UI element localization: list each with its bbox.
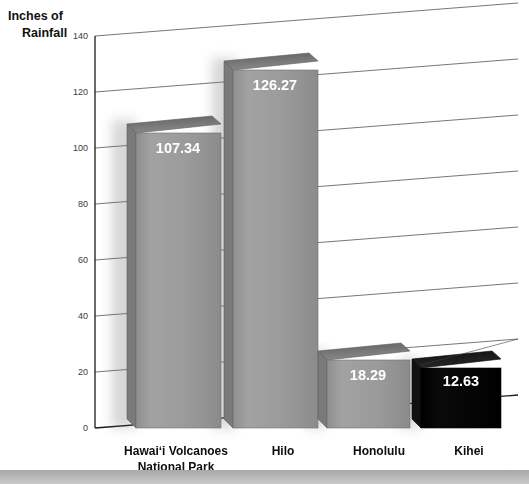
cat-label-4: Kihei: [454, 444, 483, 458]
bar-2-front-face: [233, 70, 318, 428]
bar-4-side-face: [412, 359, 421, 428]
y-tick-120: 120: [73, 87, 88, 97]
bar-3-side-face: [318, 351, 327, 428]
y-tick-140: 140: [73, 31, 88, 41]
bar-hawaii-volcanoes-national-park[interactable]: 107.34: [127, 116, 221, 428]
cat-label-2: Hilo: [272, 444, 295, 458]
y-tick-20: 20: [78, 367, 88, 377]
rainfall-bar-chart: 140 120 100 80 60 40 20 0 Inches of Rain…: [0, 0, 529, 484]
y-tick-100: 100: [73, 143, 88, 153]
y-axis-title-line-1: Inches of: [8, 9, 64, 23]
y-tick-60: 60: [78, 255, 88, 265]
cat-label-3: Honolulu: [353, 444, 405, 458]
bar-3-value-label: 18.29: [350, 367, 386, 383]
bar-4-value-label: 12.63: [443, 373, 479, 389]
bar-1-side-face: [127, 124, 136, 428]
bar-2-value-label: 126.27: [253, 77, 297, 93]
bar-2-top-face: [224, 53, 318, 70]
y-axis-ticks: 140 120 100 80 60 40 20 0: [73, 31, 88, 433]
y-axis-title: Inches of Rainfall: [8, 9, 67, 40]
chart-figure: 140 120 100 80 60 40 20 0 Inches of Rain…: [0, 0, 529, 484]
bar-honolulu[interactable]: 18.29: [318, 343, 410, 428]
y-tick-80: 80: [78, 199, 88, 209]
y-tick-40: 40: [78, 311, 88, 321]
bar-kihei[interactable]: 12.63: [412, 351, 501, 428]
bar-3-top-face: [318, 343, 410, 360]
bar-4-top-face: [412, 351, 501, 368]
bar-1-front-face: [136, 133, 221, 428]
y-axis-title-line-2: Rainfall: [22, 26, 67, 40]
bar-1-value-label: 107.34: [156, 140, 200, 156]
y-tick-0: 0: [83, 423, 88, 433]
bar-hilo[interactable]: 126.27: [224, 53, 318, 428]
bar-1-top-face: [127, 116, 221, 133]
cat-label-1-line-1: Hawaiʻi Volcanoes: [124, 444, 228, 458]
bar-2-side-face: [224, 61, 233, 428]
footer-band: [0, 470, 529, 484]
